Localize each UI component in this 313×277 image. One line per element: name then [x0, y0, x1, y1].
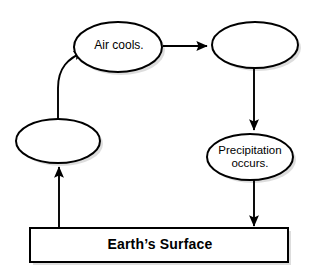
- water-cycle-diagram: Air cools. Precipitation occurs. Earth’s…: [0, 0, 313, 277]
- node-blank-top-right[interactable]: [212, 22, 298, 68]
- edge-blank-left-to-air-cools: [58, 52, 84, 119]
- node-blank-left[interactable]: [16, 119, 100, 163]
- node-earths-surface[interactable]: [30, 228, 288, 262]
- diagram-canvas-svg: [0, 0, 313, 277]
- node-air-cools[interactable]: [74, 22, 162, 72]
- node-precipitation-occurs[interactable]: [207, 134, 293, 180]
